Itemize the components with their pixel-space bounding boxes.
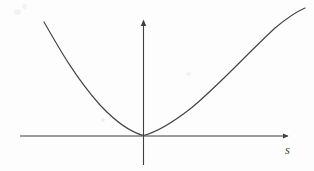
figure-container: s <box>0 0 314 171</box>
x-axis-arrowhead-icon <box>283 134 289 139</box>
figure-canvas <box>0 0 314 171</box>
x-axis-label: s <box>285 144 290 157</box>
convex-curve-path <box>44 8 305 136</box>
y-axis-arrowhead-icon <box>141 20 146 27</box>
